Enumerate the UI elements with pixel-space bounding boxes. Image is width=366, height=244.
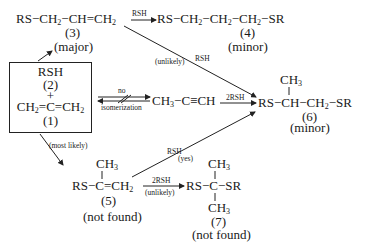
compound-6-note: (minor) xyxy=(290,121,330,135)
propyne-formula: CH3−C≡CH xyxy=(152,94,215,112)
label-c5-to-c7-unlikely: (unlikely) xyxy=(145,189,175,197)
arrow-box-to-c3 xyxy=(38,51,52,61)
label-c3-to-c6-rsh: RSH xyxy=(195,55,210,63)
label-propyne-to-c6: 2RSH xyxy=(226,94,244,102)
compound-5-note: (not found) xyxy=(83,210,142,224)
label-most-likely: (most likely) xyxy=(49,142,88,150)
compound-4-number: (4) xyxy=(240,26,255,40)
compound-6-methyl: CH3 xyxy=(280,73,302,91)
label-c5-to-c6-yes: (yes) xyxy=(178,155,193,163)
compound-5-number: (5) xyxy=(101,194,116,208)
label-isomerization: isomerization xyxy=(101,104,142,112)
compound-1-number: (1) xyxy=(9,114,92,128)
compound-3-number: (3) xyxy=(65,26,80,40)
label-c3-to-c4: RSH xyxy=(132,10,147,18)
arrow-c5-to-c6 xyxy=(132,112,255,177)
compound-4-formula: RS−CH2−CH2−CH2−SR xyxy=(157,12,284,30)
compound-3-note: (major) xyxy=(54,40,93,54)
compound-7-formula: RS−C−SR xyxy=(186,179,241,193)
compound-4-note: (minor) xyxy=(228,40,268,54)
label-isomerization-no: no xyxy=(118,87,126,95)
compound-5-methyl: CH3 xyxy=(96,157,118,175)
label-c3-to-c6-unlikely: (unlikely) xyxy=(155,58,185,66)
compound-7-note: (not found) xyxy=(192,228,251,242)
compound-7-methyl-top: CH3 xyxy=(208,157,230,175)
arrow-c3-to-c6 xyxy=(124,26,256,97)
label-c5-to-c7-2rsh: 2RSH xyxy=(152,177,170,185)
